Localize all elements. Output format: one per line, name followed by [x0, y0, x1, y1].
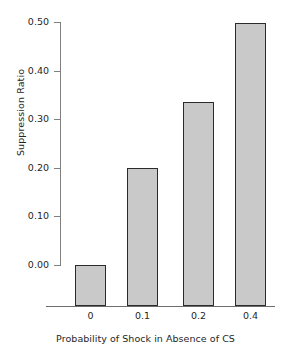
x-axis-title: Probability of Shock in Absence of CS — [0, 333, 291, 344]
x-axis-tick-label: 0 — [63, 310, 118, 321]
bar — [75, 265, 106, 306]
bar-chart: Suppression Ratio 0.000.100.200.300.400.… — [0, 0, 291, 359]
plot-area — [0, 0, 291, 359]
x-axis-tick-label: 0.2 — [171, 310, 226, 321]
x-axis-tick-label: 0.4 — [223, 310, 278, 321]
bar — [127, 168, 158, 306]
bar — [235, 23, 266, 306]
x-axis-tick-label: 0.1 — [115, 310, 170, 321]
bar — [183, 102, 214, 306]
